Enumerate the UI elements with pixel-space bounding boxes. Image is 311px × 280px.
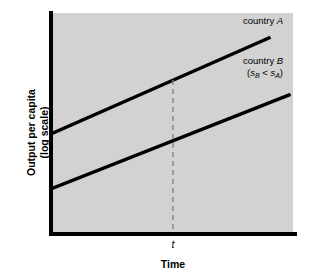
savings-rate-condition-note: (sB < sA)	[247, 67, 283, 82]
series-label-country-b-symbol: B	[277, 55, 283, 66]
condition-close-paren: )	[280, 67, 283, 78]
x-axis-title: Time	[138, 258, 208, 270]
x-axis-tick-label-t: t	[161, 238, 185, 250]
y-axis-title-line-2: (log scale)	[37, 58, 50, 208]
y-axis-title-line-1: Output per capita	[25, 58, 38, 208]
chart-figure: Output per capita (log scale) Time t cou…	[0, 0, 311, 280]
series-label-country-a: country A	[243, 15, 283, 27]
condition-relation: <	[260, 67, 271, 78]
series-line-country-a	[53, 38, 269, 133]
y-axis-title: Output per capita (log scale)	[25, 58, 50, 208]
series-label-country-a-text: country	[243, 15, 274, 26]
series-label-country-a-symbol: A	[277, 15, 283, 26]
series-label-country-b-text: country	[243, 55, 274, 66]
series-line-country-b	[53, 95, 289, 188]
series-label-country-b: country B	[243, 55, 283, 67]
